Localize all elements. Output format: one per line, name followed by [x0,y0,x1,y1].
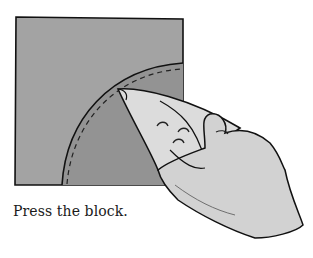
pressing-illustration [0,0,313,258]
figure-caption: Press the block. [13,203,128,219]
